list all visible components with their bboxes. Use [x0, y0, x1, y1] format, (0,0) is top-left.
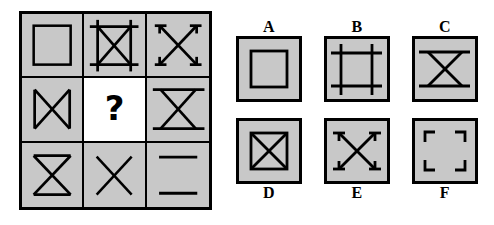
option-f-box[interactable]: [412, 118, 478, 184]
option-a[interactable]: A: [236, 18, 302, 102]
option-d[interactable]: D: [236, 118, 302, 202]
matrix-cell-r3c2[interactable]: [84, 143, 146, 207]
question-mark-glyph: ?: [105, 91, 125, 125]
matrix-cell-r2c3[interactable]: [147, 78, 209, 142]
option-c-label: C: [412, 18, 478, 36]
option-c[interactable]: C: [412, 18, 478, 102]
x-with-t-caps-icon: [147, 14, 209, 76]
matrix-cell-r1c2[interactable]: [84, 14, 146, 78]
bowtie-vertical-bars-icon: [22, 78, 82, 140]
hourglass-icon: [22, 143, 82, 207]
option-e-label: E: [324, 184, 390, 202]
hourglass-extended-bars-icon: [415, 39, 475, 99]
matrix-cell-r2c2-missing[interactable]: ?: [84, 78, 146, 142]
option-d-label: D: [236, 184, 302, 202]
matrix-cell-r1c3[interactable]: [147, 14, 209, 78]
matrix-cell-r2c1[interactable]: [22, 78, 84, 142]
option-b[interactable]: B: [324, 18, 390, 102]
matrix-cell-r1c1[interactable]: [22, 14, 84, 78]
puzzle-root: ?: [0, 0, 494, 225]
matrix-cell-r3c3[interactable]: [147, 143, 209, 207]
two-horizontal-lines-icon: [147, 143, 209, 207]
option-f[interactable]: F: [412, 118, 478, 202]
square-outline-icon: [239, 39, 299, 99]
option-f-label: F: [412, 184, 478, 202]
option-a-label: A: [236, 18, 302, 36]
option-e[interactable]: E: [324, 118, 390, 202]
square-extended-with-x-icon: [84, 14, 144, 76]
matrix-grid: ?: [19, 11, 212, 210]
option-c-box[interactable]: [412, 36, 478, 102]
option-a-box[interactable]: [236, 36, 302, 102]
matrix-cell-r3c1[interactable]: [22, 143, 84, 207]
square-outline-icon: [22, 14, 82, 76]
square-with-x-icon: [239, 121, 299, 181]
option-b-box[interactable]: [324, 36, 390, 102]
x-with-t-caps-icon: [327, 121, 387, 181]
x-plain-icon: [84, 143, 144, 207]
hourglass-extended-bars-icon: [147, 78, 209, 140]
answer-options: A B C: [232, 8, 488, 220]
option-e-box[interactable]: [324, 118, 390, 184]
square-extended-frame-icon: [327, 39, 387, 99]
option-d-box[interactable]: [236, 118, 302, 184]
option-b-label: B: [324, 18, 390, 36]
four-corner-brackets-icon: [415, 121, 475, 181]
